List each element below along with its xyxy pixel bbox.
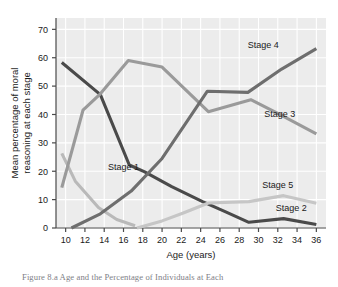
- series-label-stage-5: Stage 5: [262, 180, 293, 190]
- y-tick-label: 30: [38, 138, 48, 148]
- x-axis-title: Age (years): [166, 249, 215, 260]
- series-label-stage-4: Stage 4: [248, 40, 279, 50]
- x-tick-label: 30: [253, 235, 263, 245]
- x-tick-label: 20: [157, 235, 167, 245]
- series-label-stage-1: Stage 1: [108, 162, 139, 172]
- series-label-stage-3: Stage 3: [264, 109, 295, 119]
- x-tick-label: 10: [61, 235, 71, 245]
- x-tick-label: 32: [273, 235, 283, 245]
- x-tick-label: 12: [80, 235, 90, 245]
- line-chart-svg: 010203040506070 101214161820222426283032…: [0, 0, 338, 265]
- x-tick-label: 26: [215, 235, 225, 245]
- x-tick-label: 18: [138, 235, 148, 245]
- x-tick-label: 14: [99, 235, 109, 245]
- chart-plot-area: 010203040506070 101214161820222426283032…: [0, 0, 338, 265]
- x-tick-label: 16: [118, 235, 128, 245]
- x-tick-label: 24: [196, 235, 206, 245]
- y-tick-label: 10: [38, 195, 48, 205]
- figure-container: 010203040506070 101214161820222426283032…: [0, 0, 338, 287]
- series-label-stage-2: Stage 2: [276, 203, 307, 213]
- x-tick-labels-group: 1012141618202224262830323436: [61, 235, 322, 245]
- x-tick-label: 34: [292, 235, 302, 245]
- y-tick-label: 50: [38, 81, 48, 91]
- figure-caption: Figure 8.a Age and the Percentage of Ind…: [22, 272, 322, 282]
- y-axis-title-line1: Mean percentage of moral: [9, 68, 20, 179]
- x-tick-label: 36: [311, 235, 321, 245]
- x-tick-label: 22: [176, 235, 186, 245]
- y-axis-title-line2: reasoning at each stage: [21, 72, 32, 173]
- y-tick-label: 20: [38, 167, 48, 177]
- y-tick-label: 60: [38, 53, 48, 63]
- y-tick-label: 40: [38, 110, 48, 120]
- y-tick-labels-group: 010203040506070: [38, 25, 48, 234]
- y-tick-label: 70: [38, 25, 48, 35]
- y-tick-label: 0: [43, 223, 48, 233]
- x-tick-label: 28: [234, 235, 244, 245]
